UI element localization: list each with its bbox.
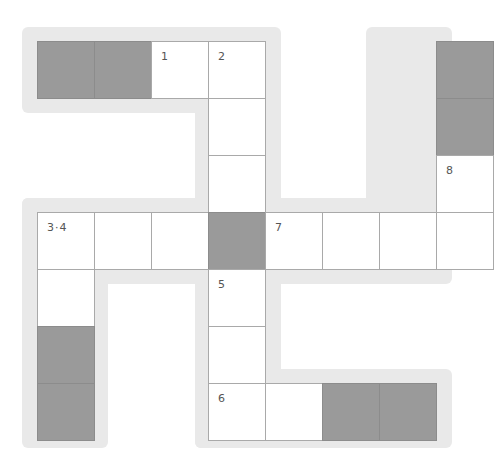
grid-cell[interactable] [208,98,266,156]
blocked-cell [379,383,437,441]
clue-number: 1 [161,50,169,63]
grid-cell[interactable] [436,212,494,270]
grid-cell[interactable] [322,212,380,270]
blocked-cell [436,41,494,99]
grid-cell[interactable] [379,212,437,270]
grid-cell[interactable] [94,212,152,270]
clue-number: 5 [218,278,226,291]
grid-cell[interactable]: 1 [151,41,209,99]
grid-cell[interactable] [208,326,266,384]
grid-cell[interactable] [37,269,95,327]
blocked-cell [37,41,95,99]
grid-cell[interactable] [208,155,266,213]
grid-cell[interactable]: 7 [265,212,323,270]
blocked-cell [37,326,95,384]
clue-number: 7 [275,221,283,234]
clue-number: 8 [446,164,454,177]
blocked-cell [37,383,95,441]
grid-cell[interactable]: 8 [436,155,494,213]
grid-cell[interactable]: 2 [208,41,266,99]
clue-number: 3·4 [47,221,68,234]
clue-number: 2 [218,50,226,63]
blocked-cell [94,41,152,99]
clue-number: 6 [218,392,226,405]
blocked-cell [322,383,380,441]
blocked-cell [208,212,266,270]
grid-cell[interactable]: 6 [208,383,266,441]
blocked-cell [436,98,494,156]
grid-cell[interactable] [151,212,209,270]
grid-cell[interactable] [265,383,323,441]
grid-cell[interactable]: 5 [208,269,266,327]
grid-cell[interactable]: 3·4 [37,212,95,270]
